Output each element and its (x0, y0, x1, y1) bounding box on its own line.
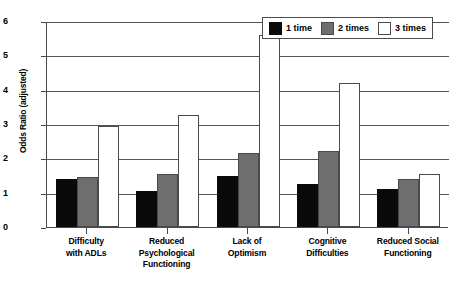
bar (259, 35, 280, 227)
bar-group (136, 21, 199, 227)
bar-group (297, 21, 360, 227)
y-tick-label: 0 (0, 222, 8, 232)
y-tick-label: 4 (0, 85, 8, 95)
x-tick-mark (247, 228, 248, 234)
bar (419, 174, 440, 227)
bar (217, 176, 238, 228)
x-tick-mark (86, 228, 87, 234)
x-category-label-line: Optimism (202, 248, 292, 260)
x-category-label: CognitiveDifficulties (282, 236, 372, 259)
x-tick-mark (408, 228, 409, 234)
x-category-label-line: Difficulties (282, 248, 372, 260)
bar (136, 191, 157, 227)
x-category-label-line: Difficulty (41, 236, 131, 248)
x-category-label-line: Lack of (202, 236, 292, 248)
white-swatch-icon (378, 22, 391, 35)
x-category-label-line: Psychological (122, 248, 212, 260)
bar (238, 153, 259, 227)
bar (398, 179, 419, 227)
bar (98, 126, 119, 227)
bar-chart: Odds Ratio (adjusted) 0123456 Difficulty… (0, 0, 460, 290)
bar (377, 189, 398, 227)
bar-group (377, 21, 440, 227)
y-tick-label: 2 (0, 153, 8, 163)
bar (56, 179, 77, 227)
y-tick-mark (41, 228, 46, 229)
x-category-label: Reduced SocialFunctioning (363, 236, 453, 259)
bar (178, 115, 199, 227)
y-tick-label: 3 (0, 119, 8, 129)
x-category-label: ReducedPsychologicalFunctioning (122, 236, 212, 271)
legend-item-2-times: 2 times (321, 22, 369, 35)
x-category-label-line: Functioning (363, 248, 453, 260)
black-swatch-icon (269, 22, 282, 35)
y-tick-label: 1 (0, 188, 8, 198)
x-category-label-line: Reduced Social (363, 236, 453, 248)
legend-label: 1 time (286, 23, 312, 33)
legend-item-3-times: 3 times (378, 22, 426, 35)
x-category-label: Difficultywith ADLs (41, 236, 131, 259)
x-category-label-line: with ADLs (41, 248, 131, 260)
x-category-label-line: Reduced (122, 236, 212, 248)
bar (297, 184, 318, 227)
x-category-label: Lack ofOptimism (202, 236, 292, 259)
plot-area (46, 22, 448, 228)
bar-group (56, 21, 119, 227)
x-tick-mark (167, 228, 168, 234)
x-category-label-line: Functioning (122, 259, 212, 271)
bar (157, 174, 178, 227)
y-axis-title: Odds Ratio (adjusted) (18, 36, 28, 186)
gray-swatch-icon (321, 22, 334, 35)
bar-group (217, 21, 280, 227)
y-tick-label: 5 (0, 50, 8, 60)
chart-legend: 1 time 2 times 3 times (262, 17, 433, 39)
legend-label: 3 times (395, 23, 426, 33)
bar (318, 151, 339, 227)
y-tick-label: 6 (0, 16, 8, 26)
legend-item-1-time: 1 time (269, 22, 312, 35)
bar (339, 83, 360, 227)
x-category-label-line: Cognitive (282, 236, 372, 248)
bar (77, 177, 98, 227)
x-tick-mark (327, 228, 328, 234)
legend-label: 2 times (338, 23, 369, 33)
